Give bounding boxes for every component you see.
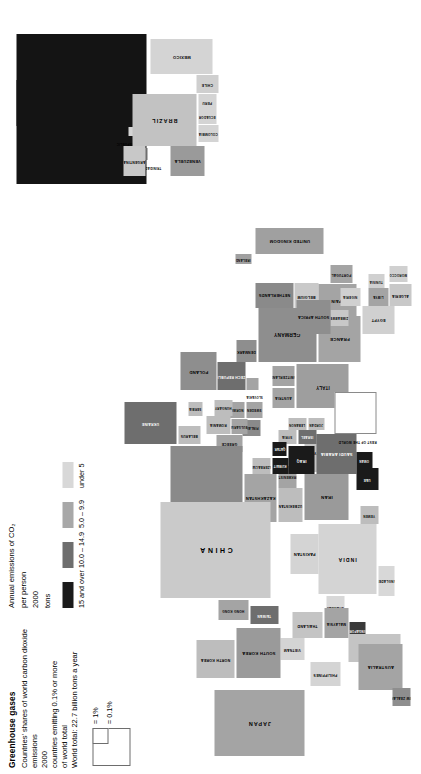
country-block-vietnam[interactable]: VIETNAM: [280, 638, 304, 660]
country-block-rest-of-the-world[interactable]: [334, 392, 376, 434]
country-label-north-korea: NORTH KOREA: [200, 657, 230, 661]
country-block-oman[interactable]: OMAN: [356, 452, 372, 468]
country-label-ukraine: UKRAINE: [141, 421, 158, 425]
country-block-libya[interactable]: LIBYA: [368, 288, 388, 306]
country-label-hong-kong: HONG KONG: [222, 608, 244, 611]
country-block-belarus[interactable]: BELARUS: [178, 426, 200, 444]
country-label-netherlands: NETHERLANDS: [258, 294, 289, 298]
country-block-zimbabwe[interactable]: ZIMBABWE: [330, 310, 348, 326]
country-label-denmark: DENMARK: [236, 349, 255, 353]
country-label-romania: ROMANIA: [210, 423, 227, 426]
country-label-nigeria: NIGERIA: [343, 295, 357, 298]
country-block-nigeria[interactable]: NIGERIA: [340, 288, 360, 306]
country-block-north-korea[interactable]: NORTH KOREA: [196, 640, 234, 678]
country-block-malaysia[interactable]: MALAYSIA: [324, 608, 348, 638]
country-block-bangladesh[interactable]: BANGLADESH: [378, 566, 394, 596]
country-block-hong-kong[interactable]: HONG KONG: [218, 600, 248, 620]
cartogram-map: CANADAUNITED STATESMEXICOCUBADOMINICAN R…: [0, 0, 421, 774]
country-block-pakistan[interactable]: PAKISTAN: [290, 534, 318, 574]
country-label-yemen: YEMEN: [363, 513, 375, 516]
country-block-south-africa[interactable]: SOUTH AFRICA: [296, 300, 330, 334]
country-block-india[interactable]: INDIA: [318, 524, 376, 594]
country-label-japan: JAPAN: [247, 720, 270, 726]
country-block-azerbaijan[interactable]: AZERBAIJAN: [252, 458, 270, 474]
country-label-tunisia: TUNISIA: [369, 279, 382, 282]
country-label-italy: ITALY: [315, 384, 329, 389]
country-label-belarus: BELARUS: [180, 433, 197, 436]
country-label-new-zealand: NEW ZEALAND: [392, 695, 410, 698]
country-block-sweden[interactable]: SWEDEN: [246, 402, 262, 418]
country-label-thailand: THAILAND: [297, 623, 317, 627]
country-block-lebanon[interactable]: LEBANON: [288, 418, 306, 430]
country-label-uzbekistan: UZBEKISTAN: [278, 503, 302, 507]
country-block-qatar[interactable]: QATAR: [272, 442, 286, 456]
country-block-serbia[interactable]: SERBIA: [188, 402, 202, 416]
country-block-denmark[interactable]: DENMARK: [236, 340, 256, 362]
country-block-venezuela[interactable]: VENEZUELA: [170, 146, 204, 176]
country-block-slovakia[interactable]: [246, 378, 258, 390]
country-block-united-kingdom[interactable]: UNITED KINGDOM: [255, 228, 323, 254]
country-label-austria: AUSTRIA: [275, 396, 292, 400]
country-block-new-zealand[interactable]: NEW ZEALAND: [392, 688, 410, 706]
country-label-czech-republic: CZECH REPUBLIC: [217, 374, 245, 378]
country-label-brazil: BRAZIL: [151, 117, 177, 123]
country-block-mexico[interactable]: MEXICO: [150, 39, 212, 74]
country-label-mexico: MEXICO: [172, 54, 190, 58]
country-block-portugal[interactable]: PORTUGAL: [330, 265, 352, 283]
country-label-argentina: ARGENTINA: [123, 159, 145, 163]
country-block-switzerland[interactable]: SWITZERLAND: [272, 366, 294, 386]
country-block-uae[interactable]: UAE: [356, 468, 378, 490]
country-block-egypt[interactable]: EGYPT: [362, 306, 394, 334]
country-block-bulgaria[interactable]: BULGARIA: [231, 419, 247, 434]
country-block-peru[interactable]: PERU: [198, 94, 216, 110]
country-label-france: FRANCE: [329, 337, 349, 342]
country-label-ecuador: ECUADOR: [199, 115, 216, 118]
country-block-morocco[interactable]: MOROCCO: [389, 266, 407, 282]
country-block-kuwait[interactable]: KUWAIT: [272, 458, 288, 474]
country-block-israel[interactable]: ISRAEL: [298, 430, 316, 444]
country-block-chile[interactable]: CHILE: [196, 75, 218, 93]
country-block-thailand[interactable]: THAILAND: [292, 612, 322, 638]
country-block-poland[interactable]: POLAND: [180, 352, 216, 390]
country-block-czech-republic[interactable]: CZECH REPUBLIC: [217, 362, 245, 390]
country-label-colombia: COLOMBIA: [198, 132, 217, 135]
country-label-kazakhstan: KAZAKHSTAN: [245, 496, 275, 500]
country-label-poland: POLAND: [188, 369, 207, 373]
country-label-philippines: PHILIPPINES: [313, 672, 337, 676]
country-block-iran[interactable]: IRAN: [304, 474, 348, 520]
country-block-uzbekistan[interactable]: UZBEKISTAN: [278, 488, 302, 522]
country-block-tunisia[interactable]: TUNISIA: [368, 274, 384, 288]
country-block-iraq[interactable]: IRAQ: [288, 446, 314, 474]
country-block-hungary[interactable]: HUNGARY: [214, 400, 232, 416]
country-label-sweden: SWEDEN: [247, 408, 262, 411]
country-block-australia[interactable]: AUSTRALIA: [358, 644, 402, 690]
country-block-philippines[interactable]: PHILIPPINES: [310, 662, 340, 686]
country-block-colombia[interactable]: COLOMBIA: [198, 125, 218, 142]
country-label-south-africa: SOUTH AFRICA: [297, 315, 329, 319]
country-label-kuwait: KUWAIT: [274, 464, 287, 467]
country-block-jordan[interactable]: JORDAN: [308, 418, 324, 430]
country-label-vietnam: VIETNAM: [283, 647, 300, 651]
country-block-yemen[interactable]: YEMEN: [360, 506, 378, 524]
country-label-egypt: EGYPT: [371, 318, 385, 322]
country-block-ireland[interactable]: IRELAND: [235, 254, 251, 264]
country-block-argentina[interactable]: ARGENTINA: [123, 146, 145, 176]
country-block-brazil[interactable]: BRAZIL: [132, 94, 196, 146]
country-label-ireland: IRELAND: [235, 257, 250, 260]
country-block-japan[interactable]: JAPAN: [214, 690, 304, 756]
country-label-bulgaria: BULGARIA: [231, 425, 247, 428]
country-label-china: CHINA: [197, 546, 232, 553]
country-block-romania[interactable]: ROMANIA: [206, 416, 230, 434]
country-block-ecuador[interactable]: ECUADOR: [198, 110, 216, 124]
country-block-algeria[interactable]: ALGERIA: [389, 284, 411, 306]
country-block-ukraine[interactable]: UKRAINE: [124, 402, 176, 444]
country-label-taiwan: TAIWAN: [257, 613, 271, 616]
country-block-china[interactable]: CHINA: [160, 502, 270, 598]
country-block-taiwan[interactable]: TAIWAN: [250, 606, 278, 624]
country-block-netherlands[interactable]: NETHERLANDS: [255, 283, 293, 308]
country-label-rest-of-the-world: REST OF THE WORLD: [338, 440, 376, 444]
cartogram-poster: Greenhouse gases Countries' shares of wo…: [0, 0, 421, 774]
country-block-austria[interactable]: AUSTRIA: [272, 388, 294, 408]
country-block-south-korea[interactable]: SOUTH KOREA: [236, 628, 280, 678]
country-label-zimbabwe: ZIMBABWE: [330, 316, 348, 319]
